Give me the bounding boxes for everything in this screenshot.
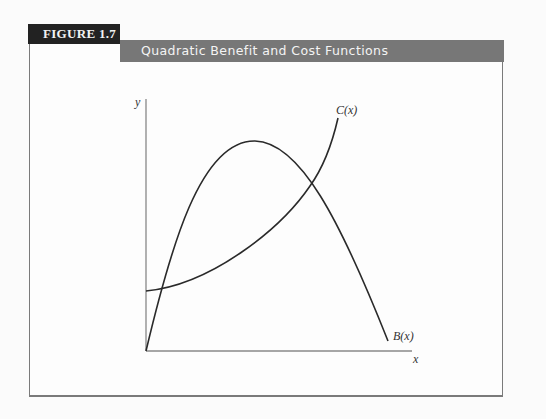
benefit-curve-label: B(x) xyxy=(393,329,414,343)
y-axis-label: y xyxy=(134,95,141,109)
cost-curve xyxy=(146,118,338,291)
chart-plot: y x C(x) B(x) xyxy=(0,0,546,419)
x-axis-label: x xyxy=(412,352,419,366)
benefit-curve xyxy=(146,141,388,351)
cost-curve-label: C(x) xyxy=(336,103,357,117)
